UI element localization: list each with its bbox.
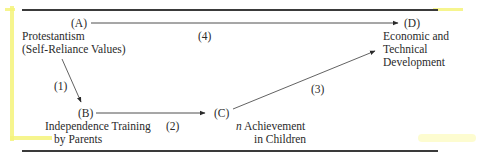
node-d-line-1: Economic and (383, 30, 449, 43)
node-d-line-3: Development (383, 56, 445, 69)
node-b-line-1: Independence Training (45, 120, 151, 133)
arrow-c-to-d (233, 51, 375, 109)
node-d-line-2: Technical (383, 43, 428, 56)
node-c-label: (C) (214, 107, 229, 120)
node-a-label: (A) (71, 17, 87, 30)
edge-1-label: (1) (54, 80, 67, 93)
edge-3-label: (3) (311, 83, 324, 96)
edge-4-label: (4) (198, 30, 211, 43)
node-b-label: (B) (78, 107, 93, 120)
node-a-line-1: Protestantism (22, 30, 85, 43)
edge-2-label: (2) (166, 120, 179, 133)
node-c-line-1: n Achievement (236, 120, 305, 133)
node-c-line-2: in Children (254, 133, 306, 146)
node-d-label: (D) (404, 17, 420, 30)
node-c-line-1-text: Achievement (242, 120, 306, 132)
node-a-line-2: (Self-Reliance Values) (22, 43, 126, 56)
node-b-line-2: by Parents (54, 133, 102, 146)
